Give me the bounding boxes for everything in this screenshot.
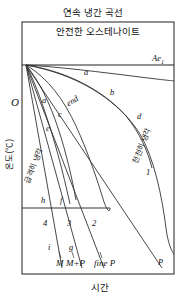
- curve-label-d: d: [137, 112, 141, 121]
- curve-label-e: e: [46, 124, 50, 133]
- product-label-martensite-pearlite: M+P: [66, 259, 85, 268]
- product-label-pearlite: P: [158, 258, 163, 267]
- product-label-martensite: M: [56, 259, 64, 268]
- page-title: 연속 냉간 곡선: [0, 8, 186, 18]
- curve-a-upper: [26, 65, 174, 81]
- curve-d: [26, 65, 174, 254]
- origin-marker: O: [11, 97, 19, 108]
- ae1-label-text: Ae: [152, 53, 161, 63]
- cooling-rate-line-1: [26, 65, 162, 268]
- curve-label-a-lower: a: [42, 96, 46, 105]
- curve-label-c: c: [58, 110, 62, 119]
- ae1-label: Ae1: [152, 54, 164, 65]
- ae1-label-subscript: 1: [161, 59, 164, 65]
- cooling-rate-label-2: 2: [92, 219, 96, 228]
- cooling-rate-label-1: 1: [146, 168, 150, 177]
- x-axis-label: 시간: [55, 283, 145, 293]
- curve-label-i: i: [48, 243, 50, 252]
- stable-austenite-region-label: 안전한 오스테나이트: [22, 27, 174, 37]
- curve-label-a-upper: a: [84, 68, 88, 77]
- curve-label-f: f: [60, 196, 62, 205]
- cct-diagram-figure: 연속 냉간 곡선 안전한 오스테나이트 온도(℃) 시간 O Ae1 a b d…: [0, 0, 186, 304]
- product-label-fine-pearlite: fine P: [94, 259, 115, 268]
- cooling-rate-label-4: 4: [43, 219, 47, 228]
- curve-e: [26, 65, 70, 204]
- cooling-rate-label-3: 3: [67, 219, 71, 228]
- curve-label-h: h: [41, 196, 45, 205]
- curve-label-b: b: [110, 88, 114, 97]
- y-axis-label: 온도(℃): [5, 119, 14, 189]
- curve-label-g: g: [69, 243, 73, 252]
